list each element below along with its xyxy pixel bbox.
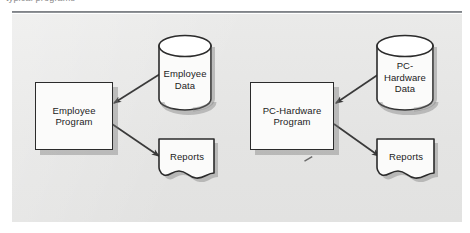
- pc-hardware-data-cylinder[interactable]: PC- Hardware Data: [373, 33, 437, 112]
- figure-caption-text: typical programs: [6, 0, 126, 3]
- document-glyph: [373, 133, 439, 189]
- diagram-figure-panel: Employee Program Employee Data Reports P…: [12, 14, 462, 222]
- pc-hardware-program-label: PC-Hardware Program: [263, 105, 322, 128]
- employee-program-box[interactable]: Employee Program: [35, 82, 113, 150]
- cylinder-glyph: [373, 33, 437, 112]
- arrow-employee-program-to-reports: [112, 124, 159, 156]
- cylinder-glyph: [155, 33, 215, 112]
- pc-hardware-reports-document[interactable]: Reports: [373, 133, 439, 189]
- figure-caption-sliver: typical programs: [6, 0, 126, 7]
- employee-program-label: Employee Program: [52, 105, 95, 128]
- document-glyph: [155, 133, 219, 189]
- pc-hardware-program-box[interactable]: PC-Hardware Program: [250, 82, 334, 150]
- arrow-employee-data-to-program: [114, 74, 160, 103]
- employee-reports-document[interactable]: Reports: [155, 133, 219, 189]
- stray-ink-mark: [304, 156, 313, 162]
- employee-data-cylinder[interactable]: Employee Data: [155, 33, 215, 112]
- header-divider-rule: [12, 11, 462, 13]
